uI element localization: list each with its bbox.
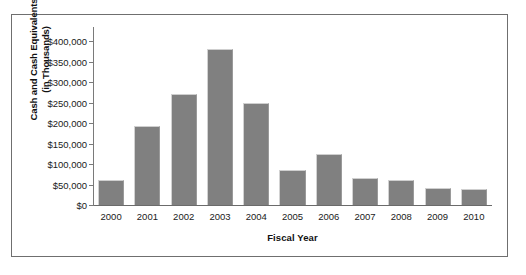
y-axis-tick-label: $350,000 (47, 56, 87, 67)
x-axis-line (93, 205, 492, 206)
bar (425, 188, 451, 205)
x-axis-title: Fiscal Year (93, 232, 492, 243)
y-axis-tick (89, 164, 94, 165)
bar (243, 103, 269, 205)
bar (98, 180, 124, 205)
bar (171, 94, 197, 205)
x-axis-tick-label: 2008 (391, 211, 412, 222)
y-axis-title: Cash and Cash Equivalents (in Thousands) (28, 0, 51, 135)
y-axis-title-line-1: Cash and Cash Equivalents (28, 0, 39, 121)
y-axis-tick (89, 123, 94, 124)
bar (279, 170, 305, 205)
x-axis-tick-label: 2002 (173, 211, 194, 222)
bar (316, 154, 342, 205)
x-axis-tick-label: 2004 (246, 211, 267, 222)
y-axis-tick-label: $150,000 (47, 138, 87, 149)
y-axis-line (93, 27, 94, 206)
x-axis-tick-label: 2006 (318, 211, 339, 222)
y-axis-tick-label: $250,000 (47, 97, 87, 108)
bar (461, 189, 487, 205)
y-axis-tick (89, 103, 94, 104)
x-axis-tick-label: 2001 (137, 211, 158, 222)
chart-figure: Cash and Cash Equivalents (in Thousands)… (0, 0, 526, 275)
x-axis-tick-label: 2003 (209, 211, 230, 222)
x-axis-tick-label: 2007 (354, 211, 375, 222)
y-axis-tick (89, 82, 94, 83)
y-axis-tick-label: $0 (76, 200, 87, 211)
x-axis-tick-label: 2005 (282, 211, 303, 222)
y-axis-tick-label: $100,000 (47, 159, 87, 170)
y-axis-tick (89, 185, 94, 186)
x-axis-tick-label: 2000 (101, 211, 122, 222)
bar (207, 49, 233, 205)
bar (134, 126, 160, 205)
y-axis-tick-label: $200,000 (47, 118, 87, 129)
y-axis-tick-label: $50,000 (53, 179, 87, 190)
x-axis-tick-label: 2010 (463, 211, 484, 222)
y-axis-tick (89, 41, 94, 42)
x-axis-tick-label: 2009 (427, 211, 448, 222)
y-axis-tick (89, 205, 94, 206)
y-axis-tick-label: $300,000 (47, 77, 87, 88)
bar (352, 178, 378, 205)
caption-strip (0, 265, 526, 275)
plot-area: $0$50,000$100,000$150,000$200,000$250,00… (93, 27, 492, 206)
y-axis-tick (89, 144, 94, 145)
y-axis-tick (89, 62, 94, 63)
y-axis-title-line-2: (in Thousands) (39, 0, 51, 135)
y-axis-tick-label: $400,000 (47, 36, 87, 47)
bar (388, 180, 414, 205)
